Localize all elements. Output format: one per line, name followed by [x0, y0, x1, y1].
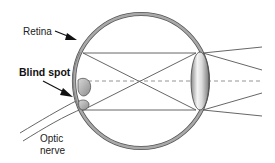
blind-spot-label: Blind spot — [19, 67, 70, 78]
lens — [191, 52, 209, 110]
ray-out-4 — [203, 110, 262, 116]
retina-label: Retina — [23, 26, 52, 37]
ray-out-2 — [203, 53, 262, 70]
ray-out-3 — [203, 93, 262, 110]
ray-out-1 — [203, 47, 262, 53]
light-rays — [83, 47, 262, 116]
optic-nerve-label-line1: Optic — [40, 133, 63, 144]
optic-nerve-label-line2: nerve — [40, 145, 65, 156]
eye-diagram: Retina Blind spot Optic nerve — [0, 0, 275, 163]
blind-spot — [78, 78, 91, 110]
retina-arrow — [55, 31, 77, 40]
blind-spot-arrow — [43, 81, 73, 97]
